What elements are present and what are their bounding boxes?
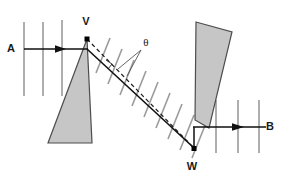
arrowhead-icon	[55, 45, 66, 53]
vertex-dot-w	[192, 146, 197, 151]
label-ray-a: A	[7, 42, 15, 54]
wavefront-line	[168, 104, 182, 139]
wavefronts-incident	[24, 20, 62, 96]
theta-leader-line	[127, 50, 141, 76]
right-prism	[195, 22, 232, 128]
optics-diagram: A B V W θ	[0, 0, 286, 176]
label-ray-b: B	[266, 120, 274, 132]
label-angle-theta: θ	[143, 36, 148, 48]
label-vertex-w: W	[187, 160, 198, 172]
refracted-ray-internal	[87, 49, 194, 148]
wavefront-line	[156, 93, 170, 128]
theta-leader-line	[118, 50, 141, 69]
incident-ray-a	[24, 45, 88, 53]
wavefronts-internal	[96, 38, 206, 158]
dashed-normal-line	[87, 39, 194, 148]
vertex-dot-v	[85, 37, 90, 42]
diagram-canvas: A B V W θ	[0, 0, 286, 176]
wavefront-line	[180, 115, 194, 150]
left-prism	[48, 39, 92, 143]
label-vertex-v: V	[82, 15, 90, 27]
